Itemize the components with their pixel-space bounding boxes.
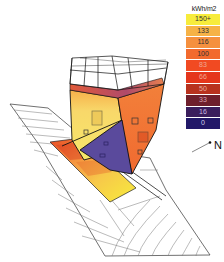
north-arrow: N xyxy=(190,137,224,157)
legend-swatch-83: 83 xyxy=(186,60,220,71)
legend-swatch-116: 116 xyxy=(186,37,220,48)
legend-swatch-150: 150+ xyxy=(186,14,220,25)
legend-swatch-100: 100 xyxy=(186,49,220,60)
legend-unit: kWh/m2 xyxy=(186,4,222,14)
legend-swatch-133: 133 xyxy=(186,26,220,37)
legend-swatch-0: 0 xyxy=(186,118,220,129)
legend-swatch-33: 33 xyxy=(186,95,220,106)
legend-swatch-16: 16 xyxy=(186,107,220,118)
legend: kWh/m2 150+ 133 116 100 83 66 50 33 16 0 xyxy=(186,4,222,130)
legend-swatch-50: 50 xyxy=(186,84,220,95)
north-label: N xyxy=(214,139,222,151)
north-arrow-icon xyxy=(190,137,214,155)
legend-swatch-66: 66 xyxy=(186,72,220,83)
